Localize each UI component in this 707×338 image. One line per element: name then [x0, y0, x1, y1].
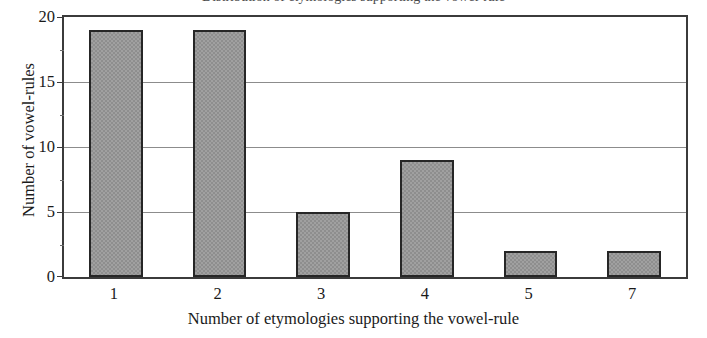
y-axis-tick [57, 212, 64, 213]
y-axis-minor-tick [60, 245, 64, 246]
y-axis-tick-label: 5 [47, 202, 55, 222]
chart-title: Distribution of etymologies supporting t… [0, 0, 707, 5]
bar [607, 251, 661, 277]
bar-chart-figure: Distribution of etymologies supporting t… [0, 0, 707, 338]
bar [193, 30, 247, 277]
y-axis-tick-label: 20 [39, 7, 56, 27]
y-axis-title: Number of vowel-rules [19, 25, 39, 255]
y-axis-minor-tick [60, 50, 64, 51]
x-axis-tick-label: 3 [317, 284, 325, 304]
x-axis-tick-label: 5 [524, 284, 532, 304]
y-axis-tick-label: 0 [47, 267, 55, 287]
y-axis-tick [57, 17, 64, 18]
y-axis-minor-tick [60, 115, 64, 116]
plot-area: 05101520 [62, 15, 688, 279]
y-axis-tick [57, 147, 64, 148]
plot-inner [64, 17, 686, 277]
x-axis-tick-label: 1 [110, 284, 118, 304]
y-axis-tick [57, 276, 64, 277]
y-axis-minor-tick [60, 180, 64, 181]
y-axis-tick-label: 10 [39, 137, 56, 157]
x-axis-tick-label: 2 [213, 284, 221, 304]
x-axis-tick-label: 4 [421, 284, 429, 304]
gridline [64, 212, 686, 213]
y-axis-tick [57, 82, 64, 83]
gridline [64, 147, 686, 148]
bar [89, 30, 143, 277]
bar [296, 212, 350, 277]
x-axis-title: Number of etymologies supporting the vow… [0, 309, 707, 329]
x-axis-tick-label: 7 [628, 284, 636, 304]
chart-title-clipped: Distribution of etymologies supporting t… [0, 0, 707, 7]
bar [400, 160, 454, 277]
bar [504, 251, 558, 277]
gridline [64, 82, 686, 83]
y-axis-tick-label: 15 [39, 72, 56, 92]
